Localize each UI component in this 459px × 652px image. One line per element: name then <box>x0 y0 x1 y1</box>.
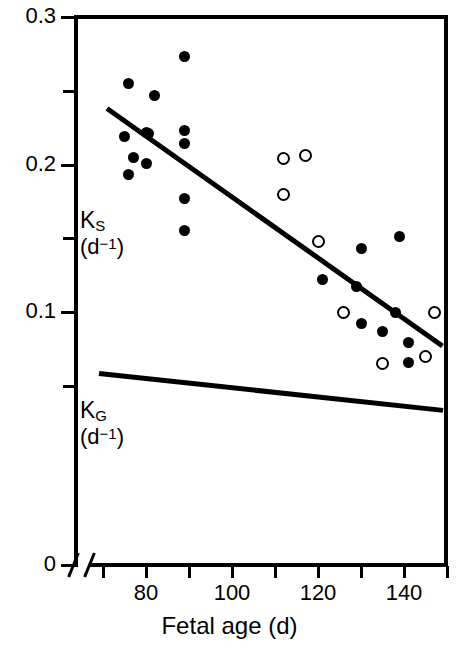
data-point <box>123 78 134 89</box>
x-tick-80 <box>145 566 148 578</box>
x-tick-150 <box>446 566 449 578</box>
data-point <box>428 306 441 319</box>
x-tick-70 <box>102 566 105 578</box>
data-point <box>119 131 130 142</box>
x-tick-label-120: 120 <box>288 580 348 606</box>
kg-series-label: KG (d−1) <box>80 398 124 449</box>
data-point <box>403 337 414 348</box>
x-tick-label-80: 80 <box>116 580 176 606</box>
data-point <box>179 125 190 136</box>
ks-series-label: KS (d−1) <box>80 208 124 259</box>
data-point <box>179 138 190 149</box>
y-tick-label-0: 0 <box>0 551 56 577</box>
data-point <box>394 231 405 242</box>
y-tick-label-0.3: 0.3 <box>0 3 56 29</box>
plot-frame-top <box>74 15 448 19</box>
x-tick-140 <box>403 566 406 578</box>
y-axis-line <box>74 15 78 567</box>
fit-line-1 <box>98 371 443 413</box>
kg-symbol: K <box>80 397 95 423</box>
ks-symbol: K <box>80 207 95 233</box>
data-point <box>299 149 312 162</box>
data-point <box>179 51 190 62</box>
data-point <box>377 326 388 337</box>
x-axis-title: Fetal age (d) <box>0 612 459 640</box>
x-tick-label-140: 140 <box>374 580 434 606</box>
ks-units: (d−1) <box>80 235 124 260</box>
data-point <box>277 152 290 165</box>
data-point <box>419 350 432 363</box>
figure-root: 0.30.20.1080100120140 KS (d−1) KG (d−1) … <box>0 0 459 652</box>
data-point <box>403 357 414 368</box>
data-point <box>312 235 325 248</box>
y-tick-label-0.1: 0.1 <box>0 298 56 324</box>
plot-frame-right <box>444 15 448 567</box>
data-point <box>179 193 190 204</box>
ks-subscript: S <box>95 217 105 234</box>
data-point <box>317 274 328 285</box>
data-point <box>356 318 367 329</box>
data-point <box>390 307 401 318</box>
x-tick-120 <box>317 566 320 578</box>
x-tick-90 <box>188 566 191 578</box>
x-axis-line <box>90 563 448 567</box>
data-point <box>337 306 350 319</box>
x-tick-label-100: 100 <box>202 580 262 606</box>
y-tick-3 <box>63 237 75 240</box>
y-tick-2 <box>61 164 75 167</box>
data-point <box>149 90 160 101</box>
data-point <box>376 357 389 370</box>
data-point <box>143 128 154 139</box>
y-tick-label-0.2: 0.2 <box>0 151 56 177</box>
kg-units: (d−1) <box>80 425 124 450</box>
data-point <box>277 188 290 201</box>
data-point <box>141 158 152 169</box>
y-tick-0 <box>61 16 75 19</box>
data-point <box>123 169 134 180</box>
data-point <box>128 152 139 163</box>
x-tick-100 <box>231 566 234 578</box>
y-tick-4 <box>61 311 75 314</box>
x-tick-110 <box>274 566 277 578</box>
data-point <box>179 225 190 236</box>
data-point <box>356 243 367 254</box>
y-tick-1 <box>63 90 75 93</box>
x-tick-130 <box>360 566 363 578</box>
kg-subscript: G <box>95 407 107 424</box>
y-tick-5 <box>63 385 75 388</box>
